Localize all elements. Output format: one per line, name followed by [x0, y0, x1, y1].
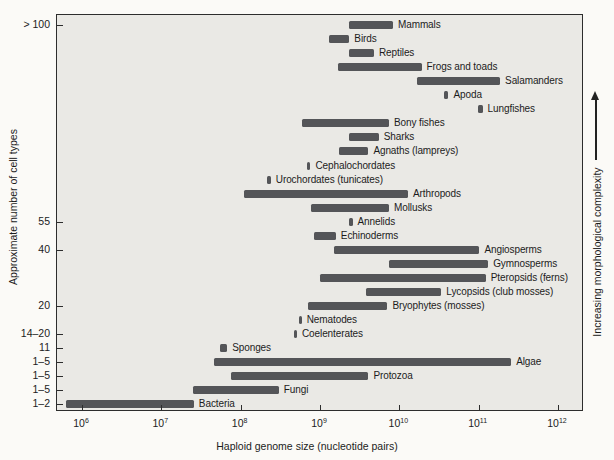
- y-tick: [57, 348, 63, 349]
- x-tick: [558, 405, 559, 410]
- x-tick-label: 106: [73, 417, 89, 429]
- bar-angiosperms: [334, 246, 479, 254]
- bar-birds: [329, 35, 350, 43]
- y-tick: [57, 25, 63, 26]
- taxon-label-algae: Algae: [516, 357, 541, 367]
- x-tick-label: 108: [232, 417, 248, 429]
- x-tick: [320, 405, 321, 410]
- up-arrow-shaft: [595, 99, 597, 160]
- taxon-label-mollusks: Mollusks: [394, 203, 432, 213]
- taxon-label-echinoderms: Echinoderms: [341, 231, 398, 241]
- taxon-label-angiosperms: Angiosperms: [484, 245, 541, 255]
- bar-frogs-and-toads: [338, 63, 421, 71]
- taxon-label-reptiles: Reptiles: [379, 48, 414, 58]
- bar-agnaths-lampreys: [339, 147, 368, 155]
- y-tick-label: > 100: [23, 18, 50, 30]
- taxon-label-agnaths-lampreys: Agnaths (lampreys): [373, 146, 458, 156]
- y-tick: [57, 404, 63, 405]
- y-tick-label: 20: [38, 299, 50, 311]
- bar-mammals: [349, 21, 393, 29]
- taxon-label-annelids: Annelids: [358, 217, 396, 227]
- x-tick-label: 1012: [547, 417, 566, 429]
- taxon-label-sharks: Sharks: [384, 132, 415, 142]
- bar-mollusks: [311, 204, 389, 212]
- taxon-label-mammals: Mammals: [398, 20, 441, 30]
- y-tick: [57, 390, 63, 391]
- y-tick-label: 1–5: [32, 383, 50, 395]
- y-tick-label: 1–5: [32, 355, 50, 367]
- bar-salamanders: [417, 77, 500, 85]
- bar-pteropsids-ferns: [320, 274, 486, 282]
- bar-bacteria: [66, 400, 194, 408]
- x-tick: [479, 405, 480, 410]
- y-tick: [57, 306, 63, 307]
- taxon-label-cephalochordates: Cephalochordates: [315, 161, 395, 171]
- taxon-label-protozoa: Protozoa: [373, 371, 412, 381]
- y-tick: [57, 250, 63, 251]
- x-tick-label: 1011: [468, 417, 487, 429]
- taxon-label-frogs-and-toads: Frogs and toads: [427, 62, 498, 72]
- y-tick: [57, 376, 63, 377]
- y-tick: [57, 334, 63, 335]
- taxon-label-coelenterates: Coelenterates: [302, 329, 363, 339]
- y-tick-label: 1–5: [32, 369, 50, 381]
- y-tick-label: 11: [39, 341, 50, 353]
- bar-urochordates-tunicates: [267, 176, 271, 184]
- bar-apoda: [444, 91, 449, 99]
- x-tick: [82, 405, 83, 410]
- taxon-label-pteropsids-ferns: Pteropsids (ferns): [491, 273, 568, 283]
- bar-protozoa: [231, 372, 368, 380]
- bar-lycopsids-club-mosses: [366, 288, 441, 296]
- x-tick: [399, 405, 400, 410]
- bar-bony-fishes: [302, 119, 389, 127]
- taxon-label-gymnosperms: Gymnosperms: [493, 259, 557, 269]
- y-axis-title: Approximate number of cell types: [7, 129, 19, 285]
- bar-echinoderms: [314, 232, 335, 240]
- taxon-label-lungfishes: Lungfishes: [488, 104, 535, 114]
- y-tick-label: 40: [38, 243, 50, 255]
- taxon-label-lycopsids-club-mosses: Lycopsids (club mosses): [446, 287, 553, 297]
- y-tick: [57, 362, 63, 363]
- taxon-label-fungi: Fungi: [284, 385, 309, 395]
- taxon-label-arthropods: Arthropods: [413, 189, 461, 199]
- taxon-label-sponges: Sponges: [232, 343, 271, 353]
- bar-fungi: [193, 386, 279, 394]
- taxon-label-apoda: Apoda: [454, 90, 482, 100]
- taxon-label-nematodes: Nematodes: [307, 315, 357, 325]
- y-tick-label: 55: [38, 215, 50, 227]
- y-tick-label: 14–20: [21, 327, 50, 339]
- bar-coelenterates: [294, 330, 297, 338]
- x-tick-label: 1010: [389, 417, 408, 429]
- taxon-label-bryophytes-mosses: Bryophytes (mosses): [392, 301, 484, 311]
- plot-area: MammalsBirdsReptilesFrogs and toadsSalam…: [56, 14, 583, 411]
- bar-lungfishes: [478, 105, 483, 113]
- x-tick: [161, 405, 162, 410]
- bar-nematodes: [299, 316, 302, 324]
- x-tick-label: 107: [153, 417, 169, 429]
- taxon-label-urochordates-tunicates: Urochordates (tunicates): [276, 175, 383, 185]
- taxon-label-bacteria: Bacteria: [199, 399, 235, 409]
- bar-cephalochordates: [307, 162, 310, 170]
- y-tick: [57, 222, 63, 223]
- complexity-label: Increasing morphological complexity: [591, 167, 603, 336]
- bar-sponges: [220, 344, 227, 352]
- bar-gymnosperms: [389, 260, 488, 268]
- x-tick: [241, 405, 242, 410]
- bar-arthropods: [244, 190, 408, 198]
- x-axis-title: Haploid genome size (nucleotide pairs): [216, 440, 398, 452]
- bar-bryophytes-mosses: [308, 302, 387, 310]
- bar-annelids: [349, 218, 352, 226]
- bar-sharks: [349, 133, 378, 141]
- x-tick-label: 109: [311, 417, 327, 429]
- y-tick-label: 1–2: [32, 397, 50, 409]
- bar-reptiles: [349, 49, 374, 57]
- taxon-label-salamanders: Salamanders: [505, 76, 563, 86]
- bar-algae: [214, 358, 511, 366]
- genome-size-cell-types-chart: MammalsBirdsReptilesFrogs and toadsSalam…: [0, 0, 614, 460]
- taxon-label-birds: Birds: [354, 34, 376, 44]
- taxon-label-bony-fishes: Bony fishes: [394, 118, 445, 128]
